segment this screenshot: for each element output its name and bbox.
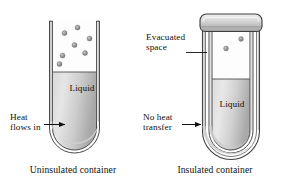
molecule-dot (224, 46, 229, 51)
caption-insulated-container: Insulated container (150, 165, 280, 175)
caption-uninsulated-container: Uninsulated container (8, 165, 138, 175)
evacuated-space-label: Evacuated space (146, 33, 185, 53)
insulated-container (182, 14, 262, 159)
molecule-dot (75, 25, 80, 30)
liquid-label-insulated: Liquid (208, 100, 256, 110)
liquid-label-uninsulated: Liquid (58, 84, 106, 94)
insulated-inner-wall-left-band (209, 25, 212, 130)
heat-flows-in-label: Heat flows in (10, 113, 41, 133)
molecule-dot (72, 43, 77, 48)
uninsulated-wall-left-band (50, 22, 52, 122)
molecule-dot (57, 62, 62, 67)
insulated-outer-wall-left-band (203, 26, 205, 130)
molecule-dot (60, 53, 65, 58)
molecule-dot (239, 37, 244, 42)
insulated-lid (200, 14, 262, 32)
insulated-inner-wall-right-band (250, 25, 253, 130)
insulated-outer-wall-right-band (257, 26, 259, 130)
insulated-liquid-body (212, 79, 250, 150)
no-heat-transfer-label: No heat transfer (143, 113, 173, 133)
molecule-dot (87, 36, 92, 41)
molecule-dot (62, 31, 67, 36)
uninsulated-wall-right-band (97, 22, 99, 122)
molecule-dot (83, 51, 88, 56)
